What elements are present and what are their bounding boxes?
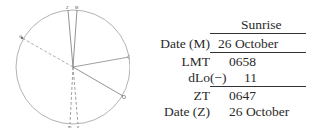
label-g: G bbox=[19, 34, 22, 39]
row-zt: ZT 0647 bbox=[130, 88, 322, 104]
row-label: Date (Z) bbox=[164, 104, 210, 120]
dlo-rule bbox=[210, 86, 306, 87]
row-date-z: Date (Z) 26 October bbox=[130, 104, 322, 120]
hour-circle-line bbox=[73, 57, 129, 67]
sun-icon bbox=[122, 95, 125, 98]
row-lmt: LMT 0658 bbox=[130, 54, 322, 70]
row-value: 0647 bbox=[229, 88, 256, 104]
label-m-top: M bbox=[75, 5, 78, 10]
row-label: LMT bbox=[182, 54, 211, 70]
row-value: 26 October bbox=[229, 104, 289, 120]
header-rule bbox=[210, 33, 306, 34]
header-row: Sunrise bbox=[130, 17, 322, 33]
row-sign: (−) bbox=[210, 70, 227, 86]
row-value: 11 bbox=[244, 70, 257, 86]
row-label: dLo bbox=[188, 70, 210, 86]
label-z-top: Z bbox=[66, 5, 69, 10]
time-diagram: Z M G m z bbox=[0, 0, 130, 129]
lower-zone-branch bbox=[70, 67, 73, 124]
row-label: ZT bbox=[194, 88, 211, 104]
column-header: Sunrise bbox=[241, 17, 282, 33]
sunrise-computation-table: Sunrise Date (M) 26 October LMT 0658 dLo… bbox=[130, 0, 322, 129]
row-value: 0658 bbox=[229, 54, 256, 70]
row-value: 26 October bbox=[218, 36, 278, 52]
lower-local-branch bbox=[73, 67, 78, 124]
label-z-bottom: z bbox=[77, 124, 79, 129]
greenwich-line bbox=[22, 38, 73, 67]
local-meridian-line bbox=[73, 10, 77, 67]
row-date-m: Date (M) 26 October bbox=[130, 36, 322, 52]
row-dlo: dLo (−) 11 bbox=[130, 70, 322, 86]
sun-line bbox=[73, 67, 123, 96]
label-m-bottom: m bbox=[68, 124, 72, 129]
row-label: Date (M) bbox=[160, 36, 210, 52]
date-rule bbox=[210, 52, 306, 53]
zone-meridian-line bbox=[68, 10, 73, 67]
